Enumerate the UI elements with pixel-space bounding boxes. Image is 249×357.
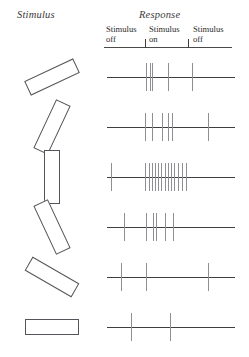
phase-label-word2: on — [149, 35, 180, 45]
stimulus-cell — [0, 102, 104, 152]
stimulus-onset-tick — [145, 39, 146, 48]
trial-row — [0, 52, 249, 102]
spike-mark — [165, 213, 166, 241]
response-column-title: Response — [139, 9, 180, 20]
spike-mark — [174, 163, 175, 191]
spike-mark — [121, 263, 122, 291]
trial-row — [0, 302, 249, 352]
spike-mark — [145, 113, 146, 141]
spike-mark — [192, 63, 193, 91]
trial-row — [0, 202, 249, 252]
phase-label-off-after: Stimulus off — [193, 25, 224, 44]
spike-mark — [152, 163, 153, 191]
spike-mark — [146, 63, 147, 91]
stimulus-cell — [0, 252, 104, 302]
spike-mark — [168, 63, 169, 91]
trial-row — [0, 102, 249, 152]
spike-mark — [158, 163, 159, 191]
timeline-rule — [104, 47, 232, 48]
spike-mark — [173, 213, 174, 241]
stimulus-bar — [25, 257, 80, 298]
spike-mark — [146, 213, 147, 241]
trial-row — [0, 152, 249, 202]
spike-mark — [152, 113, 153, 141]
stimulus-cell — [0, 152, 104, 202]
phase-label-word2: off — [193, 35, 224, 45]
stimulus-column-title: Stimulus — [17, 9, 55, 20]
spike-mark — [168, 163, 169, 191]
spike-mark — [155, 163, 156, 191]
spike-mark — [153, 213, 154, 241]
spike-mark — [124, 213, 125, 241]
spike-mark — [111, 163, 112, 191]
spike-mark — [186, 163, 187, 191]
spike-mark — [165, 163, 166, 191]
spike-mark — [152, 63, 153, 91]
phase-label-word1: Stimulus — [149, 24, 180, 34]
spike-mark — [156, 213, 157, 241]
response-cell — [104, 52, 249, 102]
response-cell — [104, 202, 249, 252]
spike-mark — [150, 63, 151, 91]
spike-mark — [170, 313, 171, 341]
spike-mark — [168, 113, 169, 141]
phase-label-off-before: Stimulus off — [106, 25, 137, 44]
stimulus-bar — [25, 319, 79, 335]
spike-mark — [131, 313, 132, 341]
spike-mark — [182, 163, 183, 191]
spike-mark — [178, 163, 179, 191]
stimulus-bar — [24, 58, 80, 95]
stimulus-phase-labels: Stimulus off Stimulus on Stimulus off — [104, 25, 236, 47]
response-cell — [104, 152, 249, 202]
spike-mark — [208, 263, 209, 291]
spike-mark — [172, 113, 173, 141]
stimulus-offset-tick — [188, 39, 189, 48]
spike-mark — [161, 163, 162, 191]
stimulus-bar — [33, 199, 70, 255]
phase-label-word1: Stimulus — [193, 24, 224, 34]
response-baseline — [107, 227, 235, 228]
spike-mark — [149, 163, 150, 191]
response-baseline — [107, 77, 235, 78]
spike-mark — [146, 263, 147, 291]
stimulus-cell — [0, 202, 104, 252]
spike-mark — [162, 113, 163, 141]
phase-label-word1: Stimulus — [106, 24, 137, 34]
stimulus-bar — [33, 99, 70, 155]
spike-mark — [208, 113, 209, 141]
trial-row — [0, 252, 249, 302]
stimulus-cell — [0, 302, 104, 352]
phase-label-on: Stimulus on — [149, 25, 180, 44]
response-baseline — [107, 277, 235, 278]
stimulus-bar — [44, 150, 60, 204]
spike-mark — [145, 163, 146, 191]
response-cell — [104, 302, 249, 352]
spike-mark — [171, 163, 172, 191]
response-cell — [104, 102, 249, 152]
response-cell — [104, 252, 249, 302]
stimulus-cell — [0, 52, 104, 102]
phase-label-word2: off — [106, 35, 137, 45]
